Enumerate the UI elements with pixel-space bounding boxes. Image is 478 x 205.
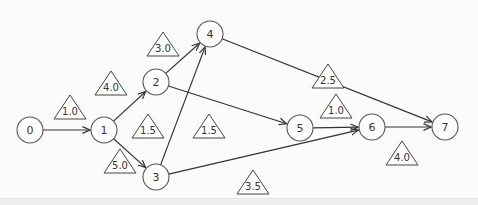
- edge-5-6: [313, 127, 358, 128]
- weight-label: 4.0: [394, 152, 410, 163]
- node-label: 4: [207, 28, 214, 41]
- weight-triangle: 1.5: [193, 114, 225, 138]
- weight-triangle: 1.0: [320, 94, 352, 118]
- weight-triangle: 3.0: [147, 32, 179, 56]
- network-graph: 1.04.03.01.51.55.02.51.04.03.5 01234567: [0, 0, 478, 205]
- node-6: 6: [359, 114, 385, 140]
- node-4: 4: [197, 21, 223, 47]
- edge-3-4: [161, 47, 205, 165]
- weight-label: 1.0: [62, 106, 78, 117]
- weight-triangle: 1.0: [54, 95, 86, 119]
- weight-triangle: 4.0: [386, 141, 418, 165]
- weight-label: 1.0: [328, 105, 344, 116]
- weight-triangle: 1.5: [132, 114, 164, 138]
- node-label: 6: [369, 121, 376, 134]
- node-1: 1: [91, 117, 117, 143]
- weights-layer: 1.04.03.01.51.55.02.51.04.03.5: [54, 32, 418, 194]
- node-label: 5: [297, 122, 304, 135]
- node-0: 0: [17, 117, 43, 143]
- weight-label: 1.5: [201, 125, 217, 136]
- node-5: 5: [287, 115, 313, 141]
- node-7: 7: [432, 114, 458, 140]
- node-label: 2: [153, 76, 160, 89]
- bottom-border: [0, 198, 478, 205]
- weight-label: 1.5: [140, 125, 156, 136]
- weight-label: 4.0: [103, 82, 119, 93]
- weight-triangle: 4.0: [95, 71, 127, 95]
- edge-1-2: [114, 91, 146, 121]
- weight-label: 5.0: [112, 160, 128, 171]
- weight-label: 3.0: [155, 43, 171, 54]
- weight-label: 2.5: [320, 75, 336, 86]
- node-label: 7: [442, 121, 449, 134]
- weight-triangle: 5.0: [104, 149, 136, 173]
- node-2: 2: [143, 69, 169, 95]
- diagram-canvas: 1.04.03.01.51.55.02.51.04.03.5 01234567: [0, 0, 478, 205]
- edge-2-5: [168, 86, 286, 124]
- weight-label: 3.5: [245, 181, 261, 192]
- node-label: 1: [101, 124, 108, 137]
- edges-layer: [43, 39, 432, 174]
- weight-triangle: 3.5: [237, 170, 269, 194]
- node-label: 3: [153, 171, 160, 184]
- node-3: 3: [143, 164, 169, 190]
- node-label: 0: [27, 124, 34, 137]
